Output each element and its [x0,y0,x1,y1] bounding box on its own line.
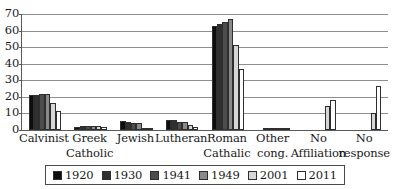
x-category-label-line2: response [335,146,393,161]
legend-item-2011: 2011 [297,169,337,181]
x-category-label-line1: No [356,131,373,145]
x-category-label-line1: Jewish [117,131,154,145]
y-tick-label-50: 50 [0,41,19,52]
chart-legend: 192019301941194920012011 [45,165,345,185]
y-tick-label-10: 10 [0,107,19,118]
x-category-label: Noresponse [335,131,393,160]
bar [193,127,198,130]
y-tick-label-40: 40 [0,58,19,69]
legend-label: 1949 [211,169,239,181]
legend-item-1949: 1949 [199,169,239,181]
bar-groups [22,14,388,130]
bar-group [74,14,106,130]
legend-label: 2001 [260,169,288,181]
x-category-label-line2: Catholic [61,146,119,161]
bar [330,100,335,130]
x-category-label-line1: Roman [207,131,247,145]
legend-swatch-icon [199,171,208,180]
legend-label: 1920 [65,169,93,181]
bar-group [120,14,152,130]
plot-area [21,14,388,130]
legend-label: 2011 [309,169,337,181]
bar [101,127,106,130]
y-tick-label-30: 30 [0,74,19,85]
bar-group [303,14,335,130]
legend-item-1920: 1920 [53,169,93,181]
legend-swatch-icon [53,171,62,180]
legend-swatch-icon [150,171,159,180]
bar [376,86,381,130]
bar-group [166,14,198,130]
bar [239,69,244,130]
legend-swatch-icon [102,171,111,180]
plot-wrapper: 706050403020100 CalvinistGreekCatholicJe… [0,0,389,136]
y-axis-tick-labels: 706050403020100 [0,0,19,136]
bar [284,128,289,130]
legend-item-2001: 2001 [248,169,288,181]
bar-group [257,14,289,130]
y-tick-label-20: 20 [0,91,19,102]
legend-item-1930: 1930 [102,169,142,181]
y-tick-label-70: 70 [0,8,19,19]
bar-group [349,14,381,130]
legend-swatch-icon [248,171,257,180]
x-axis-category-labels: CalvinistGreekCatholicJewishLutheranRoma… [21,131,387,165]
legend-label: 1930 [114,169,142,181]
bar-group [29,14,61,130]
bar [147,128,152,130]
legend-item-1941: 1941 [150,169,190,181]
x-category-label-line1: Other [256,131,289,145]
bar [56,111,61,130]
x-category-label-line1: Greek [72,131,107,145]
legend-swatch-icon [297,171,306,180]
x-category-label-line1: No [310,131,327,145]
legend-label: 1941 [162,169,190,181]
bar-group [212,14,244,130]
y-tick-label-60: 60 [0,25,19,36]
